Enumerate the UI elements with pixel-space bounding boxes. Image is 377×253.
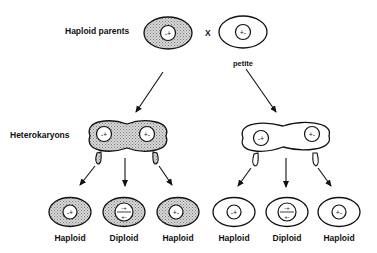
- parent-nucleus: -+: [165, 30, 171, 37]
- nucleus: -+: [231, 209, 237, 216]
- parent-cell-shaded: -+: [144, 17, 192, 49]
- progeny-arrows: [80, 158, 331, 187]
- progeny-haploid-shaded-2: +- Haploid: [157, 198, 199, 244]
- petite-label: petite: [233, 59, 253, 68]
- progeny-label: Haploid: [323, 233, 354, 243]
- nucleus-top: -+: [121, 205, 127, 211]
- progeny-label: Haploid: [54, 233, 85, 243]
- progeny-diploid-shaded: -+ +- Diploid: [103, 198, 145, 244]
- nucleus-top: -+: [284, 205, 290, 211]
- progeny-label: Diploid: [110, 233, 139, 243]
- nucleus: +-: [144, 131, 151, 138]
- arrow-to-right-heterokaryon: [246, 69, 276, 112]
- progeny-label: Diploid: [273, 233, 302, 243]
- parent-cell-petite: +-: [219, 16, 267, 48]
- haploid-parents-label: Haploid parents: [65, 26, 130, 36]
- cross-symbol: X: [205, 28, 211, 38]
- heterokaryon-shaded: -+ +-: [89, 121, 167, 164]
- nucleus: -+: [101, 131, 107, 138]
- nucleus: -+: [67, 209, 73, 216]
- nucleus: +-: [309, 131, 316, 138]
- parent-nucleus: +-: [240, 29, 247, 36]
- nucleus-bottom: +-: [284, 214, 290, 220]
- progeny-diploid-white: -+ +- Diploid: [266, 198, 308, 244]
- progeny-haploid-white-2: +- Haploid: [318, 198, 360, 244]
- heterokaryons-label: Heterokaryons: [10, 130, 70, 140]
- nucleus-bottom: +-: [121, 214, 127, 220]
- nucleus: -+: [258, 135, 264, 142]
- progeny-haploid-white-1: -+ Haploid: [213, 198, 255, 244]
- progeny-label: Haploid: [218, 233, 249, 243]
- progeny-haploid-shaded-1: -+ Haploid: [49, 198, 91, 244]
- arrow-to-left-heterokaryon: [136, 72, 163, 112]
- progeny-label: Haploid: [162, 233, 193, 243]
- nucleus: +-: [336, 209, 343, 216]
- nucleus: +-: [173, 209, 180, 216]
